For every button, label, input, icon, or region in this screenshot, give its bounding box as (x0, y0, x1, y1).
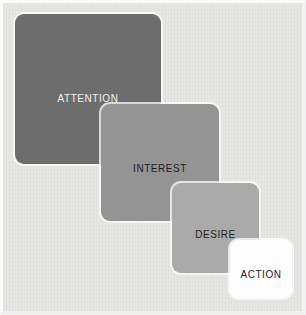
stage-box-action[interactable]: ACTION (230, 240, 292, 298)
stage-label-attention: ATTENTION (58, 93, 119, 104)
stage-label-interest: INTEREST (133, 163, 187, 174)
stage-label-action: ACTION (240, 269, 281, 280)
stage-label-desire: DESIRE (195, 229, 236, 240)
aida-diagram-canvas: ATTENTION INTEREST DESIRE ACTION (0, 0, 306, 315)
